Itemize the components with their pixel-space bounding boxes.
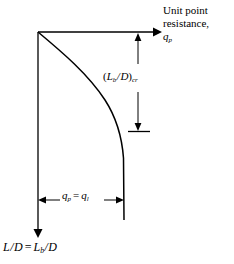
unit-point-resistance-symbol-subscript: p <box>169 36 173 44</box>
limiting-dimension-right-arrowhead-icon <box>116 197 124 204</box>
unit-point-resistance-symbol-q: q <box>163 30 169 42</box>
critical-label-numerator: L <box>107 70 113 82</box>
unit-point-resistance-line-2: resistance, <box>163 17 209 30</box>
unit-point-resistance-line-1: Unit point <box>163 4 209 17</box>
unit-point-resistance-label: Unit point resistance, qp <box>163 4 209 43</box>
limiting-label-equals: = <box>71 189 81 201</box>
critical-embedment-ratio-label: (Lb/D)cr <box>103 70 138 83</box>
limiting-resistance-label: qp=ql <box>62 189 89 202</box>
embedment-ratio-axis-label: L/D=Lb/D <box>3 240 57 254</box>
unit-point-resistance-symbol: qp <box>163 30 209 43</box>
horizontal-axis-arrowhead-icon <box>153 28 162 37</box>
limiting-dimension-left-arrowhead-icon <box>38 197 46 204</box>
figure-container: Unit point resistance, qp (Lb/D)cr qp=ql… <box>0 0 234 264</box>
embedment-label-d-1: D <box>14 240 23 254</box>
embedment-label-lb-subscript: b <box>40 246 44 255</box>
embedment-label-equals: = <box>23 240 34 254</box>
critical-label-subscript: cr <box>132 76 138 84</box>
vertical-axis-group <box>34 32 43 238</box>
vertical-axis-arrowhead-icon <box>34 229 43 238</box>
horizontal-axis-group <box>38 28 162 37</box>
critical-label-numerator-subscript: b <box>113 76 117 84</box>
limiting-label-right-symbol: q <box>81 189 87 201</box>
limiting-label-left-subscript: p <box>68 195 72 203</box>
embedment-label-l: L <box>3 240 10 254</box>
limiting-label-left-symbol: q <box>62 189 68 201</box>
embedment-label-d-2: D <box>48 240 57 254</box>
limiting-label-right-subscript: l <box>87 195 89 203</box>
critical-dimension-down-arrowhead-icon <box>135 123 142 131</box>
critical-dimension-up-arrowhead-icon <box>135 33 142 41</box>
